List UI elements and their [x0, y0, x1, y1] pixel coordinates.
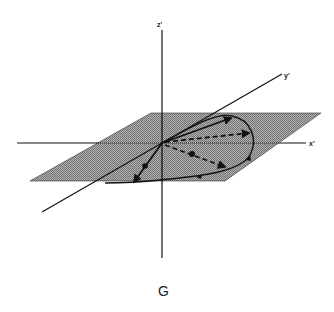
figure-caption: G — [158, 283, 169, 299]
diagram-canvas: z' y' x' G — [0, 0, 334, 312]
y-axis-label: y' — [284, 72, 290, 80]
point-marker-icon — [189, 151, 195, 157]
z-axis-label: z' — [157, 21, 163, 28]
point-marker-icon — [142, 163, 148, 169]
x-axis-label: x' — [309, 140, 315, 147]
plane — [30, 113, 321, 181]
